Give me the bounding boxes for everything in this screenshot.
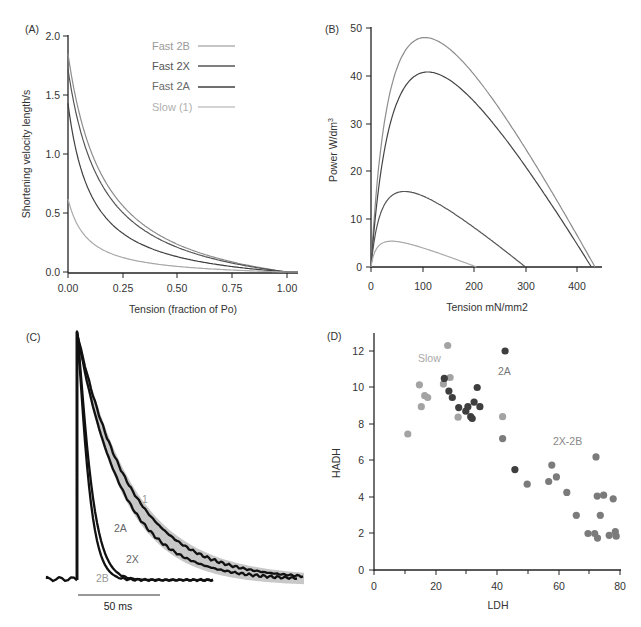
panel-d-xtick: 80 xyxy=(614,580,626,592)
scatter-point-2x-2b xyxy=(548,462,555,469)
scatter-point-2x-2b xyxy=(594,493,601,500)
scatter-point-2x-2b xyxy=(584,530,591,537)
scatter-point-2a xyxy=(502,347,509,354)
panel-c: (C) 1 2A 2X 2B 50 ms xyxy=(26,331,304,612)
panel-b-label: (B) xyxy=(325,23,339,35)
scatter-point-slow xyxy=(455,414,462,421)
scatter-point-2a xyxy=(445,388,452,395)
trace-label-2x: 2X xyxy=(126,553,139,565)
scatter-point-2a xyxy=(476,403,483,410)
panel-b-xtick: 300 xyxy=(517,280,535,292)
panel-b-ytick: 50 xyxy=(350,22,362,34)
scatter-point-2x-2b xyxy=(545,478,552,485)
power-curve-fast-2x xyxy=(371,72,591,267)
panel-d: (D) 12 10 8 6 4 2 0 0 xyxy=(327,330,626,611)
panel-d-scatter-points xyxy=(404,342,620,542)
legend-label-fast-2x: Fast 2X xyxy=(152,60,191,72)
power-curve-fast-2a xyxy=(371,192,526,268)
group-label-2a: 2A xyxy=(498,365,511,377)
panel-b-xtick: 100 xyxy=(414,280,432,292)
panel-b-ytick: 30 xyxy=(350,118,362,130)
scatter-point-2x-2b xyxy=(524,481,531,488)
panel-b-curves xyxy=(371,38,595,267)
trace-label-1: 1 xyxy=(142,493,148,505)
panel-d-xtick: 60 xyxy=(553,580,565,592)
panel-d-y-axis-title: HADH xyxy=(330,448,342,478)
panel-a-xtick: 0.00 xyxy=(58,282,79,294)
panel-d-ytick: 12 xyxy=(352,345,364,357)
panel-b-y-axis-title: Power W/dm3 xyxy=(327,118,339,182)
figure: (A) 2.0 1.5 1.0 0.5 0.0 0.00 0.25 0.50 0… xyxy=(0,0,641,627)
scatter-point-2x-2b xyxy=(573,512,580,519)
panel-a-ytick: 1.0 xyxy=(45,148,60,160)
panel-b-ytick: 40 xyxy=(350,70,362,82)
trace-label-2b: 2B xyxy=(96,572,109,584)
panel-b-xtick: 400 xyxy=(568,280,586,292)
scatter-point-slow xyxy=(424,394,431,401)
panel-b-ytick: 20 xyxy=(350,165,362,177)
panel-d-label: (D) xyxy=(327,330,342,342)
panel-d-xtick: 20 xyxy=(430,580,442,592)
legend-label-fast-2b: Fast 2B xyxy=(152,40,190,52)
scatter-point-2a xyxy=(464,403,471,410)
scatter-point-slow xyxy=(444,342,451,349)
group-label-2x-2b: 2X-2B xyxy=(553,435,582,447)
panel-b-xtick: 200 xyxy=(465,280,483,292)
panel-b-x-ticks xyxy=(371,267,577,272)
scatter-point-slow xyxy=(404,430,411,437)
scatter-point-2x-2b xyxy=(592,453,599,460)
trace-label-2a: 2A xyxy=(114,522,127,534)
scatter-point-2a xyxy=(449,394,456,401)
panel-d-xtick: 0 xyxy=(371,580,377,592)
scatter-point-2a xyxy=(511,466,518,473)
scatter-point-2x-2b xyxy=(606,532,613,539)
scatter-point-2x-2b xyxy=(553,473,560,480)
curve-slow-1 xyxy=(68,199,298,272)
scale-bar-label: 50 ms xyxy=(104,600,133,612)
group-label-slow: Slow xyxy=(418,352,441,364)
legend-label-fast-2a: Fast 2A xyxy=(152,80,191,92)
panel-a-ytick: 2.0 xyxy=(45,30,60,42)
scatter-point-2a xyxy=(455,404,462,411)
panel-b-y-axis-title-sup: 3 xyxy=(327,118,334,122)
panel-b-ytick: 10 xyxy=(350,213,362,225)
scatter-point-slow xyxy=(499,413,506,420)
panel-a-ytick: 0.0 xyxy=(45,266,60,278)
scatter-point-2x-2b xyxy=(563,489,570,496)
panel-d-xtick: 40 xyxy=(491,580,503,592)
scatter-point-2x-2b xyxy=(594,535,601,542)
panel-a-xtick: 0.25 xyxy=(113,282,134,294)
panel-b: (B) 50 40 30 20 10 0 0 100 200 300 400 T… xyxy=(325,22,602,313)
panel-a-xtick: 1.00 xyxy=(277,282,298,294)
panel-d-ytick: 6 xyxy=(358,454,364,466)
twitch-baseline xyxy=(47,577,77,581)
legend-label-slow-1: Slow (1) xyxy=(152,101,192,113)
panel-d-ytick: 8 xyxy=(358,418,364,430)
panel-d-ytick: 0 xyxy=(358,564,364,576)
scatter-point-2x-2b xyxy=(613,533,620,540)
scatter-point-slow xyxy=(416,381,423,388)
panel-b-ytick: 0 xyxy=(356,261,362,273)
panel-b-xtick: 0 xyxy=(368,280,374,292)
panel-a-y-axis-title: Shortening velocity length/s xyxy=(20,90,32,218)
panel-a-x-ticks xyxy=(68,273,287,278)
scatter-point-2a xyxy=(474,384,481,391)
power-curve-fast-2b xyxy=(371,38,595,267)
panel-a-legend: Fast 2B Fast 2X Fast 2A Slow (1) xyxy=(152,40,235,113)
panel-a-y-ticks xyxy=(63,36,68,272)
panel-d-x-axis-title: LDH xyxy=(487,599,508,611)
panel-b-x-axis-title: Tension mN/mm2 xyxy=(446,301,528,313)
panel-c-label: (C) xyxy=(26,331,41,343)
panel-a-ytick: 1.5 xyxy=(45,89,60,101)
panel-a-ytick: 0.5 xyxy=(45,207,60,219)
scatter-point-2a xyxy=(469,415,476,422)
panel-a-label: (A) xyxy=(25,23,39,35)
scatter-point-2a xyxy=(471,399,478,406)
panel-d-x-ticks xyxy=(374,570,620,575)
panel-b-y-axis-title-text: Power W/dm xyxy=(327,122,339,182)
panel-a-xtick: 0.50 xyxy=(167,282,188,294)
scatter-point-2x-2b xyxy=(597,512,604,519)
panel-a: (A) 2.0 1.5 1.0 0.5 0.0 0.00 0.25 0.50 0… xyxy=(20,23,298,315)
panel-a-x-axis-title: Tension (fraction of Po) xyxy=(129,303,237,315)
power-curve-slow-1 xyxy=(371,241,477,267)
